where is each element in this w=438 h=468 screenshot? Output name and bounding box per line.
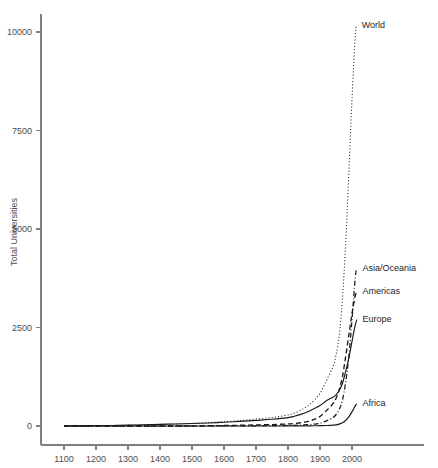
series-line-world	[64, 26, 357, 426]
series-line-europe	[64, 320, 357, 426]
x-tick-label: 1800	[278, 454, 298, 464]
x-tick-label: 1700	[246, 454, 266, 464]
x-axis: 1100120013001400150016001700180019002000	[41, 445, 424, 464]
x-tick-label: 2000	[342, 454, 362, 464]
series-label-group: WorldAsia/OceaniaAmericasEuropeAfrica	[362, 20, 416, 408]
series-label-europe: Europe	[362, 314, 391, 324]
series-label-africa: Africa	[362, 398, 385, 408]
y-tick-label: 7500	[12, 126, 32, 136]
series-group	[64, 26, 357, 426]
x-tick-label: 1300	[118, 454, 138, 464]
y-tick-label: 2500	[12, 323, 32, 333]
series-line-asia-oceania	[64, 268, 357, 426]
series-label-world: World	[362, 20, 385, 30]
x-tick-group: 1100120013001400150016001700180019002000	[54, 445, 362, 464]
series-label-americas: Americas	[362, 286, 400, 296]
series-label-asia-oceania: Asia/Oceania	[362, 263, 416, 273]
y-tick-label: 0	[27, 421, 32, 431]
y-axis: 025005000750010000 Total Universities	[7, 14, 41, 445]
x-tick-label: 1400	[150, 454, 170, 464]
x-tick-label: 1200	[86, 454, 106, 464]
chart-container: 025005000750010000 Total Universities 11…	[0, 0, 438, 468]
y-axis-title: Total Universities	[9, 197, 19, 266]
x-tick-label: 1500	[182, 454, 202, 464]
x-tick-label: 1600	[214, 454, 234, 464]
y-tick-label: 10000	[7, 27, 32, 37]
x-tick-label: 1100	[54, 454, 73, 464]
line-chart: 025005000750010000 Total Universities 11…	[0, 0, 438, 468]
x-tick-label: 1900	[310, 454, 330, 464]
series-line-americas	[64, 292, 357, 426]
